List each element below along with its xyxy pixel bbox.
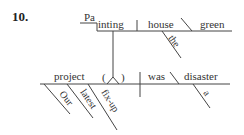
- gerund-raised-text: Pa: [84, 11, 95, 23]
- subject-text: project: [54, 70, 85, 82]
- complement-divider: [181, 18, 192, 31]
- pedestal-foot-left: [107, 77, 113, 84]
- verb-text: was: [148, 70, 165, 82]
- appositive-open: (: [102, 71, 106, 84]
- appositive-close: ): [121, 71, 125, 84]
- modifier-latest-text: latest: [78, 87, 99, 111]
- complement-text: green: [200, 18, 225, 30]
- sentence-diagram: Pa inting house green the project ( ) wa…: [0, 0, 244, 135]
- gerund-lowered-text: inting: [98, 18, 124, 30]
- modifier-a-text: a: [201, 88, 213, 98]
- modifier-fixup-text: fix-up: [99, 87, 121, 114]
- object-text: house: [148, 18, 174, 30]
- predicate-noun-text: disaster: [184, 70, 218, 82]
- modifier-the-text: the: [166, 33, 182, 50]
- pedestal-foot-right: [113, 77, 119, 84]
- modifier-line-a: [193, 84, 210, 108]
- predicate-divider: [170, 72, 179, 84]
